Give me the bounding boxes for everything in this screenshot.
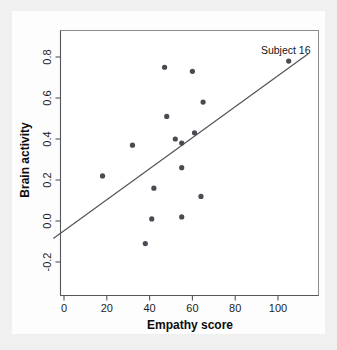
y-tick-label-3: 0.2 <box>41 172 53 187</box>
x-tick-label-5: 100 <box>269 302 287 314</box>
y-axis-title: Brain activity <box>18 122 32 198</box>
x-axis-title: Empathy score <box>147 318 233 332</box>
annotation-subject-16: Subject 16 <box>261 44 311 56</box>
y-tick-label-4: 0.0 <box>41 213 53 228</box>
y-axis: 0.8 0.6 0.4 0.2 0.0 -0.2 Brain activity <box>18 31 60 296</box>
data-point <box>164 114 169 119</box>
y-tick-label-1: 0.6 <box>41 90 53 105</box>
y-tick-label-0: 0.8 <box>41 49 53 64</box>
x-tick-label-4: 80 <box>229 302 241 314</box>
data-point <box>162 65 167 70</box>
data-point <box>179 141 184 146</box>
data-point <box>100 173 105 178</box>
x-axis: 0 20 40 60 80 100 Empathy score <box>61 296 319 333</box>
scatter-plot: 0.8 0.6 0.4 0.2 0.0 -0.2 Brain activity … <box>0 0 337 350</box>
data-point <box>130 143 135 148</box>
point-annotations: Subject 16 <box>261 44 311 56</box>
data-point <box>190 69 195 74</box>
data-point <box>201 100 206 105</box>
y-tick-label-2: 0.4 <box>41 131 53 146</box>
data-point <box>149 216 154 221</box>
y-tick-label-5: -0.2 <box>41 253 53 272</box>
x-tick-label-3: 60 <box>186 302 198 314</box>
data-point <box>151 186 156 191</box>
x-tick-label-2: 40 <box>143 302 155 314</box>
data-point <box>179 165 184 170</box>
data-point <box>286 59 291 64</box>
x-tick-label-1: 20 <box>101 302 113 314</box>
figure-container: 0.8 0.6 0.4 0.2 0.0 -0.2 Brain activity … <box>0 0 337 350</box>
x-tick-label-0: 0 <box>61 302 67 314</box>
plot-frame <box>61 31 319 296</box>
data-point <box>173 136 178 141</box>
data-point <box>198 194 203 199</box>
data-point <box>192 130 197 135</box>
data-point <box>179 214 184 219</box>
data-point <box>143 241 148 246</box>
